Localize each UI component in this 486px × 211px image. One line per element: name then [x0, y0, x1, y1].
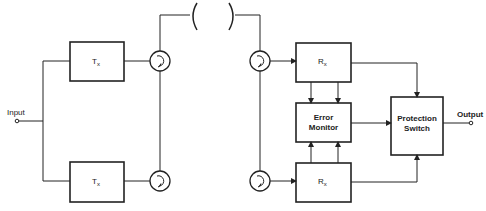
input-terminal: [15, 119, 43, 123]
diagram-canvas: Input Output Tx Tx Rx Rx Error Monitor P…: [0, 0, 486, 211]
rx-label-top: Rx: [318, 57, 327, 67]
protection-switch-label-1: Protection: [397, 114, 437, 123]
channel-icon: [193, 3, 233, 30]
input-split-bus: [43, 61, 70, 181]
input-label: Input: [7, 108, 26, 117]
circulator-icon: [150, 171, 170, 191]
circulator-icon: [250, 51, 270, 71]
output-label: Output: [457, 110, 484, 119]
error-monitor-label-2: Monitor: [309, 123, 338, 132]
error-monitor-label-1: Error: [314, 113, 334, 122]
tx-label-bottom: Tx: [92, 177, 100, 187]
rx-label-bottom: Rx: [318, 177, 327, 187]
protection-switch-label-2: Switch: [404, 124, 430, 133]
tx-label-top: Tx: [92, 57, 100, 67]
circulator-icon: [250, 171, 270, 191]
circulator-icon: [150, 51, 170, 71]
output-terminal: [443, 121, 473, 125]
